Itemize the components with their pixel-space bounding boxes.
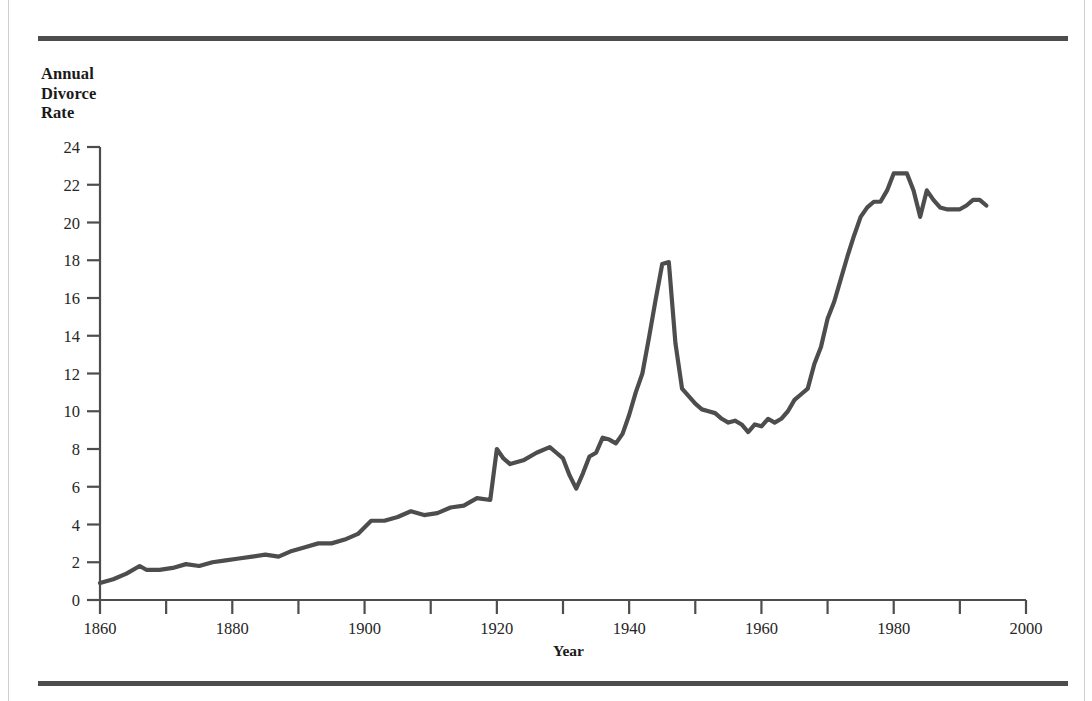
y-tick-label: 22 [64,176,81,195]
y-tick-label: 10 [64,402,81,421]
y-tick-label: 2 [72,553,80,572]
y-tick-label: 0 [72,591,80,610]
y-tick-label: 6 [72,478,80,497]
y-tick-label: 8 [72,440,80,459]
x-tick-label: 2000 [1010,619,1043,638]
x-axis-title-label: Year [553,642,584,659]
figure-page: Annual Divorce Rate 02468101214161820222… [0,0,1092,701]
x-tick-label: 1960 [745,619,778,638]
x-tick-label: 1940 [613,619,646,638]
x-tick-label: 1920 [480,619,513,638]
x-tick-label: 1980 [877,619,910,638]
y-tick-label: 4 [72,516,80,535]
x-axis-title: Year [0,642,1092,660]
divorce-rate-line-chart: 024681012141618202224 186018801900192019… [0,0,1092,701]
x-axis-ticks: 18601880190019201940196019802000 [84,600,1043,638]
data-series-line [100,173,986,583]
x-tick-label: 1860 [84,619,117,638]
y-axis-ticks: 024681012141618202224 [64,138,101,610]
y-tick-label: 14 [64,327,81,346]
y-tick-label: 20 [64,214,81,233]
y-tick-label: 18 [64,251,81,270]
y-tick-label: 16 [64,289,81,308]
y-tick-label: 12 [64,365,81,384]
x-tick-label: 1880 [216,619,249,638]
y-tick-label: 24 [64,138,81,157]
x-tick-label: 1900 [348,619,381,638]
